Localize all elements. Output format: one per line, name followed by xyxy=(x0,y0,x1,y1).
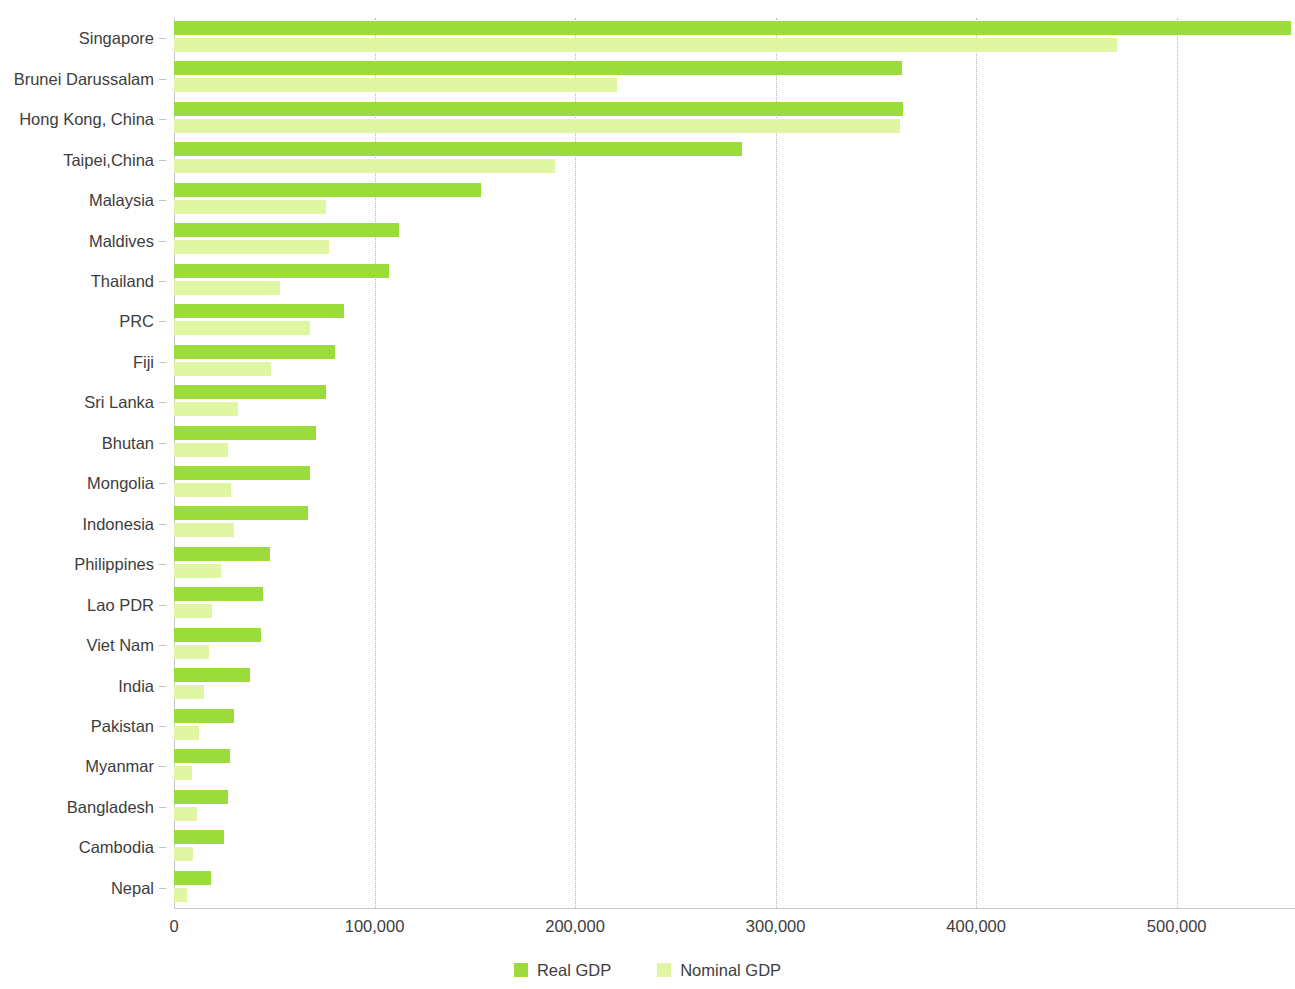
y-axis-tick xyxy=(159,362,166,363)
bar-real-gdp[interactable] xyxy=(174,871,211,885)
y-axis-label: Thailand xyxy=(91,273,154,290)
bar-real-gdp[interactable] xyxy=(174,547,270,561)
y-axis-tick xyxy=(159,321,166,322)
bar-nominal-gdp[interactable] xyxy=(174,240,329,254)
bar-group xyxy=(174,584,1293,624)
bar-real-gdp[interactable] xyxy=(174,345,335,359)
bar-group xyxy=(174,220,1293,260)
y-axis-tick xyxy=(159,79,166,80)
bar-nominal-gdp[interactable] xyxy=(174,807,197,821)
bar-group xyxy=(174,301,1293,341)
bar-real-gdp[interactable] xyxy=(174,506,308,520)
bar-real-gdp[interactable] xyxy=(174,264,389,278)
y-axis-tick xyxy=(159,807,166,808)
y-axis-label: Myanmar xyxy=(85,758,154,775)
bar-nominal-gdp[interactable] xyxy=(174,200,326,214)
bar-group xyxy=(174,503,1293,543)
bar-nominal-gdp[interactable] xyxy=(174,362,271,376)
bar-group xyxy=(174,706,1293,746)
x-axis-tick-label: 200,000 xyxy=(545,918,605,935)
bar-nominal-gdp[interactable] xyxy=(174,888,187,902)
bar-nominal-gdp[interactable] xyxy=(174,726,199,740)
gdp-bar-chart: SingaporeBrunei DarussalamHong Kong, Chi… xyxy=(0,0,1295,989)
y-axis-label: Bhutan xyxy=(102,435,154,452)
bar-real-gdp[interactable] xyxy=(174,142,742,156)
legend-swatch-icon xyxy=(514,963,528,977)
y-axis-label: Indonesia xyxy=(82,516,154,533)
bar-real-gdp[interactable] xyxy=(174,183,481,197)
y-axis-label: Malaysia xyxy=(89,192,154,209)
y-axis-label: Mongolia xyxy=(87,475,154,492)
y-axis-tick xyxy=(159,443,166,444)
bar-real-gdp[interactable] xyxy=(174,223,399,237)
bar-nominal-gdp[interactable] xyxy=(174,119,900,133)
y-axis-label: India xyxy=(118,678,154,695)
bar-group xyxy=(174,787,1293,827)
bar-nominal-gdp[interactable] xyxy=(174,159,555,173)
bar-real-gdp[interactable] xyxy=(174,466,310,480)
y-axis-tick xyxy=(159,766,166,767)
bar-nominal-gdp[interactable] xyxy=(174,443,228,457)
bar-nominal-gdp[interactable] xyxy=(174,78,617,92)
bar-group xyxy=(174,746,1293,786)
bar-nominal-gdp[interactable] xyxy=(174,604,212,618)
y-axis-tick xyxy=(159,605,166,606)
bar-real-gdp[interactable] xyxy=(174,628,261,642)
plot-area xyxy=(174,18,1293,908)
y-axis-label: Viet Nam xyxy=(86,637,154,654)
bar-group xyxy=(174,99,1293,139)
y-axis-label: Maldives xyxy=(89,233,154,250)
bar-real-gdp[interactable] xyxy=(174,61,902,75)
bar-nominal-gdp[interactable] xyxy=(174,645,209,659)
bar-real-gdp[interactable] xyxy=(174,587,263,601)
y-axis-tick xyxy=(159,281,166,282)
y-axis-tick xyxy=(159,160,166,161)
bar-nominal-gdp[interactable] xyxy=(174,564,221,578)
bar-nominal-gdp[interactable] xyxy=(174,321,310,335)
y-axis-label: Lao PDR xyxy=(87,597,154,614)
bar-real-gdp[interactable] xyxy=(174,385,326,399)
bar-nominal-gdp[interactable] xyxy=(174,402,238,416)
y-axis-tick xyxy=(159,524,166,525)
y-axis-tick xyxy=(159,200,166,201)
y-axis-label: Cambodia xyxy=(79,839,154,856)
y-axis-label: Philippines xyxy=(74,556,154,573)
bar-group xyxy=(174,382,1293,422)
bar-group xyxy=(174,827,1293,867)
bar-group xyxy=(174,665,1293,705)
bar-nominal-gdp[interactable] xyxy=(174,483,231,497)
bar-real-gdp[interactable] xyxy=(174,102,903,116)
bar-real-gdp[interactable] xyxy=(174,304,344,318)
bar-real-gdp[interactable] xyxy=(174,790,228,804)
bar-nominal-gdp[interactable] xyxy=(174,523,234,537)
y-axis-label: Singapore xyxy=(79,30,154,47)
bar-real-gdp[interactable] xyxy=(174,668,250,682)
y-axis-label: Bangladesh xyxy=(67,799,154,816)
bar-real-gdp[interactable] xyxy=(174,426,316,440)
y-axis-label: Brunei Darussalam xyxy=(14,71,154,88)
y-axis-tick xyxy=(159,645,166,646)
x-axis-tick-label: 100,000 xyxy=(345,918,405,935)
bar-real-gdp[interactable] xyxy=(174,749,230,763)
y-axis-tick xyxy=(159,119,166,120)
bar-real-gdp[interactable] xyxy=(174,830,224,844)
legend-item[interactable]: Nominal GDP xyxy=(657,962,781,979)
y-axis-tick xyxy=(159,564,166,565)
legend-item[interactable]: Real GDP xyxy=(514,962,611,979)
bar-nominal-gdp[interactable] xyxy=(174,766,192,780)
y-axis-tick xyxy=(159,847,166,848)
bar-group xyxy=(174,342,1293,382)
x-axis-line xyxy=(174,908,1295,909)
bar-nominal-gdp[interactable] xyxy=(174,38,1117,52)
bar-nominal-gdp[interactable] xyxy=(174,685,204,699)
y-axis-tick xyxy=(159,241,166,242)
y-axis-category-labels: SingaporeBrunei DarussalamHong Kong, Chi… xyxy=(0,18,166,908)
x-axis-tick-label: 0 xyxy=(169,918,178,935)
bar-nominal-gdp[interactable] xyxy=(174,281,280,295)
bar-group xyxy=(174,261,1293,301)
bar-nominal-gdp[interactable] xyxy=(174,847,193,861)
bar-real-gdp[interactable] xyxy=(174,21,1291,35)
bar-group xyxy=(174,544,1293,584)
bar-real-gdp[interactable] xyxy=(174,709,234,723)
bar-group xyxy=(174,625,1293,665)
